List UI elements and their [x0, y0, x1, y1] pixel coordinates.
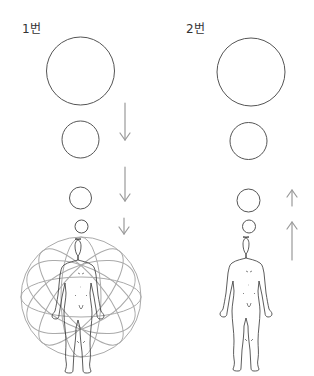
orbit-sphere: [16, 237, 146, 357]
panel-1-arrows: [119, 103, 130, 234]
circle-medium: [62, 121, 99, 158]
panel-2-human-figure: [220, 237, 272, 371]
down-arrow-icon: [120, 167, 130, 201]
chakra-diagram: [0, 0, 314, 376]
down-arrow-icon: [120, 103, 130, 140]
circle-medium: [230, 123, 267, 160]
panel-2-circles: [217, 38, 285, 233]
circle-large: [47, 37, 115, 105]
down-arrow-icon: [119, 218, 129, 234]
circle-tiny: [243, 220, 256, 233]
circle-small: [70, 187, 92, 209]
panel-2-arrows: [287, 190, 297, 260]
up-arrow-icon: [287, 222, 297, 260]
panel-1-circles: [47, 37, 115, 233]
circle-tiny: [75, 220, 88, 233]
circle-large: [217, 38, 285, 106]
circle-small: [237, 189, 260, 212]
up-arrow-icon: [287, 190, 297, 206]
